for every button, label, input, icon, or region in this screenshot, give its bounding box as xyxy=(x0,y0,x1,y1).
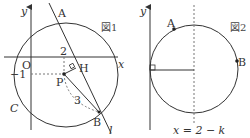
segment-ph xyxy=(64,68,76,74)
figure-1-title: 図1 xyxy=(101,22,117,33)
x-axis-label: x xyxy=(118,58,125,71)
y-axis-2-label: y xyxy=(139,5,147,18)
figure-2: y A B x = 2 − k 図2 xyxy=(139,5,246,137)
figure-1: y x O C 2 −1 l H 3 P B A 図1 xyxy=(4,3,125,137)
tick-x-2: 2 xyxy=(60,45,67,58)
y-axis-label: y xyxy=(20,5,28,18)
point-b-label: B xyxy=(93,116,101,129)
dashed-line-label: x = 2 − k xyxy=(173,124,226,137)
segment-pb-label: 3 xyxy=(74,94,81,107)
curve-c-label: C xyxy=(10,102,19,115)
point-a-2-label: A xyxy=(166,17,176,30)
diagram-canvas: y x O C 2 −1 l H 3 P B A 図1 y xyxy=(0,0,250,138)
right-angle-h xyxy=(69,63,74,68)
point-b xyxy=(98,111,101,114)
tick-y-minus1: −1 xyxy=(10,68,26,81)
line-l-label: l xyxy=(109,124,113,137)
segment-pb xyxy=(64,74,99,112)
point-h-label: H xyxy=(79,62,89,75)
point-a-label: A xyxy=(57,7,67,20)
point-p-label: P xyxy=(56,76,64,89)
point-b-2-label: B xyxy=(238,56,246,69)
right-angle-2 xyxy=(150,65,155,70)
figure-2-title: 図2 xyxy=(230,22,246,33)
